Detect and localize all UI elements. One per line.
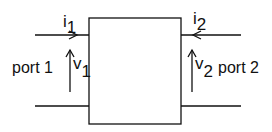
network-box bbox=[89, 18, 181, 124]
i1-label: i1 bbox=[63, 12, 76, 37]
v2-label: v2 bbox=[195, 54, 213, 81]
two-port-diagram: i1 i2 v1 v2 port 1 port 2 bbox=[0, 0, 272, 132]
v1-label: v1 bbox=[73, 54, 91, 81]
port1-label: port 1 bbox=[12, 59, 53, 76]
i2-label: i2 bbox=[193, 9, 206, 34]
port2-label: port 2 bbox=[218, 59, 259, 76]
